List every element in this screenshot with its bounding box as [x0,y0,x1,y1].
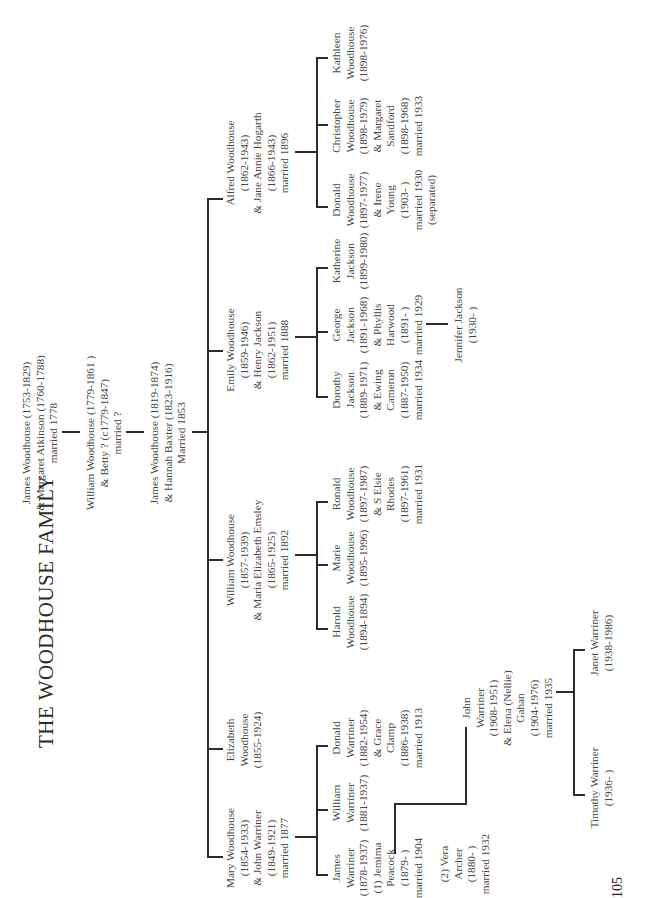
connector-line [295,836,317,838]
connector-line [316,396,328,398]
sibling-bar [573,650,575,796]
person-donald-woodhouse: Donald Woodhouse (1897-1977) & Irene You… [330,170,439,231]
connector-line [316,57,328,59]
connector-line [316,267,328,269]
page-number: 105 [610,877,626,898]
person-mary-woodhouse: Mary Woodhouse (1854-1933) & John Warrin… [224,808,292,888]
connector-line [316,874,328,876]
sibling-bar [316,268,318,398]
person-james-woodhouse-1753: James Woodhouse (1753-1829) & Margaret A… [20,355,61,511]
person-william-woodhouse-1857: William Woodhouse (1857-1939) & Maria El… [224,500,292,621]
person-katherine-jackson: Katherine Jackson (1899-1980) [330,233,371,289]
connector-line [295,336,317,338]
person-elizabeth-woodhouse: Elizabeth Woodhouse (1855-1924) [224,712,265,768]
connector-line [207,748,223,750]
connector-line [295,151,317,153]
connector-line [573,794,585,796]
person-jennifer-jackson: Jennifer Jackson (1930- ) [452,288,479,363]
connector-line [207,198,223,200]
person-marie-woodhouse: Marie Woodhouse (1895-1996) [330,530,371,586]
person-george-jackson: George Jackson (1891-1968) & Phyllis Har… [330,295,425,356]
person-donald-warriner: Donald Warriner (1882-1954) & Grace Clam… [330,708,425,769]
connector-line [316,564,328,566]
connector-line [426,323,448,325]
connector-line [316,331,328,333]
person-kathleen-woodhouse: Kathleen Woodhouse (1898-1976) [330,25,371,81]
person-james-woodhouse-1819: James Woodhouse (1819-1874) & Hannah Bax… [148,362,189,505]
connector-line [316,628,328,630]
connector-line [207,350,223,352]
person-janet-warriner: Janet Warriner (1938-1986) [588,610,615,676]
connector-line [316,124,328,126]
person-james-warriner-second-spouse: (2) Vera Archer (1880- ) married 1932 [438,834,492,895]
sibling-bar [316,502,318,630]
connector-line [207,559,223,561]
connector-line [316,745,328,747]
connector-line [295,554,317,556]
page-title: THE WOODHOUSE FAMILY [34,475,59,748]
family-tree-page: THE WOODHOUSE FAMILY James Woodhouse (17… [0,0,650,898]
connector-line [192,431,208,433]
person-emily-woodhouse: Emily Woodhouse (1859-1946) & Henry Jack… [224,308,292,391]
connector-line [126,431,144,433]
person-ronald-woodhouse: Ronald Woodhouse (1897-1987) & S Elsie R… [330,464,425,525]
connector-line [207,856,223,858]
sibling-bar [316,58,318,208]
sibling-bar [207,199,209,858]
connector-line [394,804,396,854]
person-john-warriner: John Warriner (1908-1951) & Elena (Nelli… [460,670,555,745]
person-william-warriner: William Warriner (1881-1937) [330,775,371,831]
person-james-warriner: James Warriner (1878-1937) (1) Jemima Pe… [330,838,425,898]
person-harold-woodhouse: Harold Woodhouse (1894-1894) [330,594,371,650]
person-dorothy-jackson: Dorothy Jackson (1889-1971) & Ewing Came… [330,360,425,421]
connector-line [573,649,585,651]
connector-line [62,431,80,433]
sibling-bar [316,746,318,876]
person-christopher-woodhouse: Christopher Woodhouse (1898-1979) & Marg… [330,96,425,157]
connector-line [316,809,328,811]
connector-line [316,501,328,503]
person-william-woodhouse-1779: William Woodhouse (1779-1861 ) & Betty ?… [84,356,125,510]
person-alfred-woodhouse: Alfred Woodhouse (1862-1943) & Jane Anni… [224,112,292,213]
connector-line [316,206,328,208]
connector-line [556,691,574,693]
person-timothy-warriner: Timothy Warriner (1936- ) [588,748,615,829]
connector-line [394,803,466,805]
